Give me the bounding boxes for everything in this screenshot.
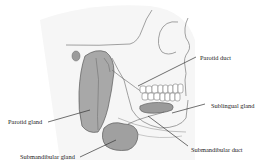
label-parotid-gland: Parotid gland (8, 119, 42, 125)
label-parotid-duct: Parotid duct (200, 55, 231, 61)
mastoid (72, 51, 80, 61)
skull-illustration (0, 0, 267, 168)
label-submandibular-gland: Submandibular gland (20, 154, 75, 160)
salivary-gland-diagram: Parotid duct Sublingual gland Parotid gl… (0, 0, 267, 168)
submandibular-gland-shape (102, 123, 138, 151)
label-sublingual-gland: Sublingual gland (211, 103, 255, 109)
label-submandibular-duct: Submandibular duct (191, 147, 243, 153)
sublingual-gland-shape (140, 102, 173, 113)
